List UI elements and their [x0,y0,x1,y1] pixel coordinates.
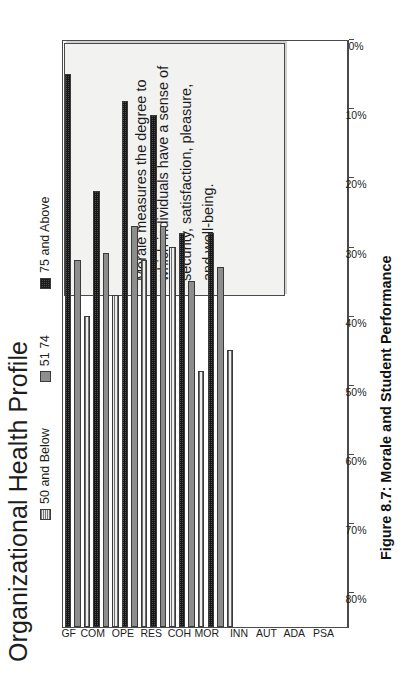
axis-tick-label: 50% [345,386,366,398]
bar-group [320,41,348,627]
axis-tick-label: 10% [345,109,366,121]
bar-res-dark [150,115,157,627]
axis-tick-label: 70% [345,524,366,536]
bar-group [292,41,321,627]
bar-res-light [169,247,176,627]
bar-gf-light [84,316,91,627]
bar-mor-light [227,350,234,627]
bar-com-light [112,295,119,627]
bar-mor-dark [208,233,215,627]
bar-mor-mid [217,267,224,627]
category-label-aut: AUT [256,627,277,639]
plot-area: Morale measures the degree to which indi… [62,40,348,628]
bar-group [263,41,292,627]
bar-group [206,41,235,627]
bar-com-dark [93,191,100,627]
axis-tick-label: 0% [348,40,363,52]
chart-legend: 50 and Below 51 74 75 and Above [38,196,52,520]
legend-label: 51 74 [38,335,52,366]
category-label-gf: GF [62,627,77,639]
legend-item-75-and-above[interactable]: 75 and Above [38,196,52,288]
category-label-mor: MOR [195,627,220,639]
legend-label: 50 and Below [38,428,52,504]
figure-container: Organizational Health Profile 50 and Bel… [0,0,405,680]
mid-gray-swatch [40,371,51,382]
category-label-coh: COH [167,627,190,639]
bar-gf-dark [65,74,72,627]
bar-coh-dark [179,233,186,627]
bar-ope-mid [131,226,138,627]
bar-ope-dark [122,101,129,627]
category-label-ada: ADA [284,627,306,639]
bar-coh-light [198,371,205,627]
bar-coh-mid [188,281,195,627]
bar-com-mid [103,253,110,627]
rotated-figure-frame: Organizational Health Profile 50 and Bel… [0,0,405,680]
axis-tick-label: 30% [345,248,366,260]
category-axis-labels: GFCOMOPERESCOHMORINNAUTADAPSA [62,630,348,674]
bar-group [120,41,149,627]
bar-group [63,41,92,627]
category-label-res: RES [141,627,163,639]
category-label-inn: INN [230,627,248,639]
legend-item-51-74[interactable]: 51 74 [38,335,52,382]
legend-label: 75 and Above [38,196,52,272]
axis-tick-label: 20% [345,178,366,190]
bar-gf-mid [74,260,81,627]
bar-group [92,41,121,627]
plot-wrapper: Morale measures the degree to which indi… [62,40,348,628]
value-axis-ticks: 80%70%60%50%40%30%20%10%0% [349,40,375,628]
category-label-com: COM [80,627,105,639]
category-label-ope: OPE [111,627,133,639]
bar-group [235,41,264,627]
bar-group [177,41,206,627]
bar-group [149,41,178,627]
axis-tick-label: 40% [345,317,366,329]
bar-ope-light [141,260,148,627]
axis-tick-label: 80% [345,593,366,605]
light-hatch-swatch [40,509,51,520]
category-label-psa: PSA [313,627,334,639]
bar-res-mid [160,226,167,627]
legend-item-50-and-below[interactable]: 50 and Below [38,428,52,520]
chart-title: Organizational Health Profile [4,341,33,662]
axis-tick-label: 60% [345,455,366,467]
figure-caption: Figure 8.7: Morale and Student Performan… [378,255,394,560]
dark-checker-swatch [40,278,51,289]
